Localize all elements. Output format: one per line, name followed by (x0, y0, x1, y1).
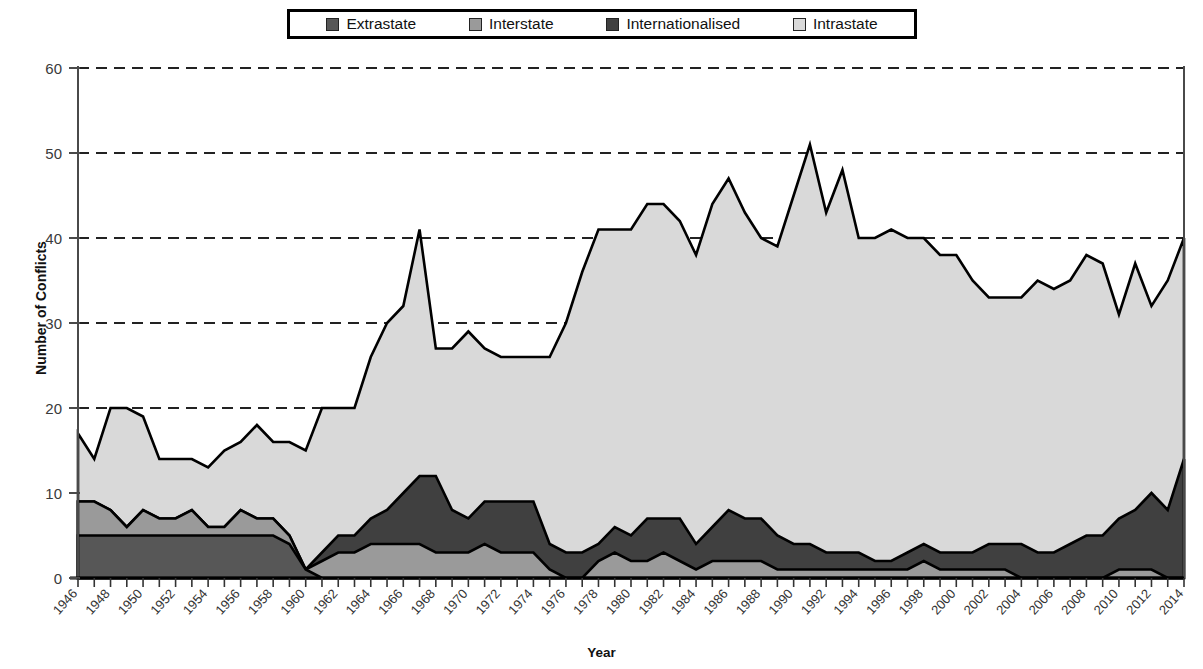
svg-text:1960: 1960 (277, 586, 307, 618)
svg-text:1948: 1948 (82, 586, 112, 618)
svg-text:1990: 1990 (765, 586, 795, 618)
svg-text:2004: 2004 (993, 586, 1023, 618)
svg-text:0: 0 (54, 570, 62, 587)
svg-text:1972: 1972 (473, 586, 503, 618)
svg-text:1982: 1982 (635, 586, 665, 618)
svg-text:2014: 2014 (1156, 586, 1186, 618)
svg-text:1978: 1978 (570, 586, 600, 618)
svg-text:1974: 1974 (505, 586, 535, 618)
svg-text:2010: 2010 (1091, 586, 1121, 618)
svg-text:1976: 1976 (538, 586, 568, 618)
stacked-areas (78, 145, 1184, 579)
svg-text:1958: 1958 (245, 586, 275, 618)
svg-text:1954: 1954 (180, 586, 210, 618)
area-chart-plot: 0102030405060 19461948195019521954195619… (0, 0, 1203, 669)
svg-text:1956: 1956 (212, 586, 242, 618)
svg-text:2000: 2000 (928, 586, 958, 618)
x-tick-labels: 1946194819501952195419561958196019621964… (50, 586, 1186, 618)
svg-text:1946: 1946 (50, 586, 80, 618)
svg-text:1996: 1996 (863, 586, 893, 618)
svg-text:1962: 1962 (310, 586, 340, 618)
svg-text:2008: 2008 (1058, 586, 1088, 618)
y-tick-labels: 0102030405060 (45, 60, 62, 587)
svg-text:30: 30 (45, 315, 62, 332)
svg-text:2006: 2006 (1026, 586, 1056, 618)
svg-text:1998: 1998 (895, 586, 925, 618)
svg-text:2002: 2002 (961, 586, 991, 618)
svg-text:1964: 1964 (342, 586, 372, 618)
svg-text:1970: 1970 (440, 586, 470, 618)
svg-text:1966: 1966 (375, 586, 405, 618)
svg-text:1950: 1950 (115, 586, 145, 618)
svg-text:60: 60 (45, 60, 62, 77)
svg-text:2012: 2012 (1123, 586, 1153, 618)
chart-root: Extrastate Interstate Internationalised … (0, 0, 1203, 669)
svg-text:20: 20 (45, 400, 62, 417)
svg-text:1984: 1984 (668, 586, 698, 618)
svg-text:1994: 1994 (830, 586, 860, 618)
svg-text:10: 10 (45, 485, 62, 502)
svg-text:1986: 1986 (700, 586, 730, 618)
svg-text:1988: 1988 (733, 586, 763, 618)
svg-text:1980: 1980 (603, 586, 633, 618)
svg-text:50: 50 (45, 145, 62, 162)
svg-text:1968: 1968 (408, 586, 438, 618)
svg-text:1952: 1952 (147, 586, 177, 618)
svg-text:40: 40 (45, 230, 62, 247)
svg-text:1992: 1992 (798, 586, 828, 618)
